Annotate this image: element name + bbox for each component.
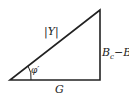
triangle	[10, 10, 100, 80]
angle-label: φ′	[31, 66, 39, 75]
base-label: G	[55, 84, 64, 95]
side-label-b2: B	[123, 46, 129, 59]
side-label-minus: −	[114, 46, 123, 59]
hypotenuse-label: |Y|	[44, 26, 59, 37]
side-label: Bc−BL	[102, 47, 129, 61]
side-label-b1: B	[102, 46, 110, 59]
